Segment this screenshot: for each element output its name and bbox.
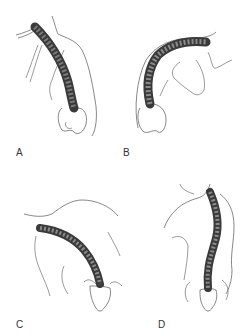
- spine-illustration-a: [0, 0, 124, 166]
- panel-d: D: [124, 166, 249, 333]
- spine-illustration-c: [0, 166, 124, 333]
- panel-label-a: A: [16, 148, 23, 158]
- spine-illustration-b: [124, 0, 249, 166]
- panel-label-b: B: [123, 148, 130, 158]
- panel-label-d: D: [158, 320, 165, 330]
- spine-illustration-d: [124, 166, 249, 333]
- panel-b: B: [124, 0, 249, 166]
- panel-c: C: [0, 166, 124, 333]
- panel-a: A: [0, 0, 124, 166]
- panel-label-c: C: [16, 320, 23, 330]
